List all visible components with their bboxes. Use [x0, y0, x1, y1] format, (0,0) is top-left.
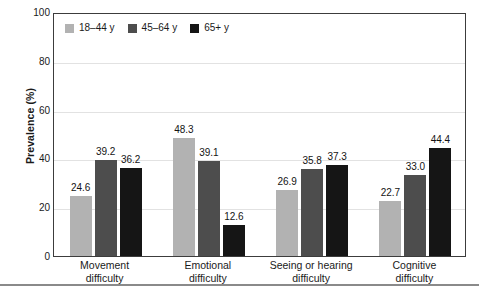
x-axis-category-line: difficulty: [45, 272, 165, 285]
bar-value-label: 26.9: [277, 177, 296, 187]
bar[interactable]: [404, 175, 426, 256]
bar-item[interactable]: 39.1: [198, 12, 220, 256]
y-axis-tick-label: 20: [22, 203, 50, 213]
bar-value-label: 33.0: [406, 162, 425, 172]
x-axis-category-line: Emotional: [148, 259, 268, 272]
legend-swatch-icon: [128, 24, 137, 33]
bar-value-label: 48.3: [174, 125, 193, 135]
legend-label: 45–64 y: [142, 23, 178, 33]
bar-value-label: 39.1: [199, 148, 218, 158]
bar-value-label: 37.3: [327, 152, 346, 162]
bar-value-label: 22.7: [381, 188, 400, 198]
bar[interactable]: [429, 148, 451, 256]
bar[interactable]: [223, 225, 245, 256]
bar-value-label: 35.8: [302, 156, 321, 166]
bar[interactable]: [301, 169, 323, 256]
bar-item[interactable]: 44.4: [429, 12, 451, 256]
bar[interactable]: [326, 165, 348, 256]
x-axis-category-label: Emotionaldifficulty: [148, 259, 268, 284]
bar-item[interactable]: 22.7: [379, 12, 401, 256]
bar-group: 22.733.044.4: [379, 14, 451, 256]
bar-group: 26.935.837.3: [276, 14, 348, 256]
x-axis-category-line: difficulty: [354, 272, 474, 285]
x-axis-category-label: Movementdifficulty: [45, 259, 165, 284]
legend-item[interactable]: 18–44 y: [65, 23, 115, 33]
x-axis-category-line: Seeing or hearing: [251, 259, 371, 272]
plot-inner: 24.639.236.248.339.112.626.935.837.322.7…: [54, 14, 465, 256]
legend-swatch-icon: [190, 24, 199, 33]
bar[interactable]: [379, 201, 401, 256]
bar-item[interactable]: 39.2: [95, 12, 117, 256]
x-axis-category-line: Cognitive: [354, 259, 474, 272]
legend-item[interactable]: 65+ y: [190, 23, 229, 33]
bar-group: 48.339.112.6: [173, 14, 245, 256]
prevalence-bar-chart-figure: Prevalence (%) 020406080100 24.639.236.2…: [0, 0, 479, 288]
bar-value-label: 24.6: [71, 183, 90, 193]
bar-value-label: 44.4: [431, 135, 450, 145]
legend-item[interactable]: 45–64 y: [128, 23, 178, 33]
plot-area: 24.639.236.248.339.112.626.935.837.322.7…: [53, 13, 466, 257]
bar[interactable]: [198, 161, 220, 256]
bar-item[interactable]: 24.6: [70, 12, 92, 256]
legend: 18–44 y45–64 y65+ y: [65, 23, 229, 33]
footer-divider: [0, 284, 479, 286]
bar-item[interactable]: 33.0: [404, 12, 426, 256]
y-axis-tick-label: 80: [22, 57, 50, 67]
y-axis-tick-label: 60: [22, 106, 50, 116]
bar-value-label: 12.6: [224, 212, 243, 222]
bar[interactable]: [120, 168, 142, 256]
x-axis-category-line: difficulty: [251, 272, 371, 285]
x-axis-category-line: difficulty: [148, 272, 268, 285]
legend-label: 65+ y: [204, 23, 229, 33]
bar-value-label: 39.2: [96, 147, 115, 157]
y-axis-tick-label: 40: [22, 154, 50, 164]
x-axis-category-line: Movement: [45, 259, 165, 272]
bar[interactable]: [95, 160, 117, 256]
bar[interactable]: [173, 138, 195, 256]
y-axis-tick-labels: 020406080100: [20, 0, 50, 288]
bar-item[interactable]: 12.6: [223, 12, 245, 256]
bar-item[interactable]: 35.8: [301, 12, 323, 256]
x-axis-category-label: Cognitivedifficulty: [354, 259, 474, 284]
bar-group: 24.639.236.2: [70, 14, 142, 256]
bar-item[interactable]: 36.2: [120, 12, 142, 256]
bar-item[interactable]: 48.3: [173, 12, 195, 256]
bar[interactable]: [276, 190, 298, 256]
legend-label: 18–44 y: [79, 23, 115, 33]
bar-item[interactable]: 37.3: [326, 12, 348, 256]
bar-item[interactable]: 26.9: [276, 12, 298, 256]
legend-swatch-icon: [65, 24, 74, 33]
bar-value-label: 36.2: [121, 155, 140, 165]
bar[interactable]: [70, 196, 92, 256]
x-axis-category-label: Seeing or hearingdifficulty: [251, 259, 371, 284]
y-axis-tick-label: 100: [22, 8, 50, 18]
